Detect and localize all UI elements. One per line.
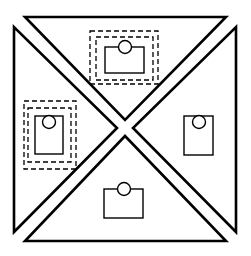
circle-icon-right bbox=[193, 116, 206, 129]
quadrant-diagram bbox=[0, 0, 251, 256]
circle-icon-bottom bbox=[118, 183, 131, 196]
circle-icon-top bbox=[119, 41, 132, 54]
circle-icon-left bbox=[43, 116, 56, 129]
